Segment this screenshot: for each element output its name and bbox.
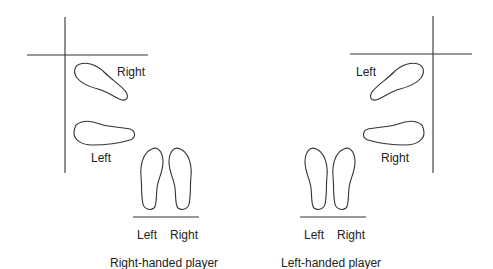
stance-left-foot-icon (305, 148, 327, 209)
stance-left-label: Left (304, 229, 324, 241)
footwork-diagram: Right Left Left Right Right-handed playe… (0, 0, 493, 269)
upper-foot-label: Right (117, 66, 145, 78)
stance-right-label: Right (337, 229, 365, 241)
stance-right-label: Right (170, 229, 198, 241)
footprint-lower-icon (364, 122, 425, 146)
lower-foot-label: Left (91, 152, 111, 164)
right-handed-panel (27, 17, 199, 217)
stance-right-foot-icon (169, 148, 191, 209)
left-handed-panel (300, 16, 472, 217)
footprint-lower-icon (74, 122, 135, 146)
stance-left-label: Left (137, 229, 157, 241)
stance-left-foot-icon (141, 148, 163, 209)
diagram-canvas (0, 0, 493, 269)
footprint-upper-icon (371, 63, 424, 100)
right-handed-caption: Right-handed player (110, 257, 218, 269)
lower-foot-label: Right (381, 152, 409, 164)
left-handed-caption: Left-handed player (281, 257, 381, 269)
upper-foot-label: Left (356, 66, 376, 78)
stance-right-foot-icon (333, 148, 355, 209)
